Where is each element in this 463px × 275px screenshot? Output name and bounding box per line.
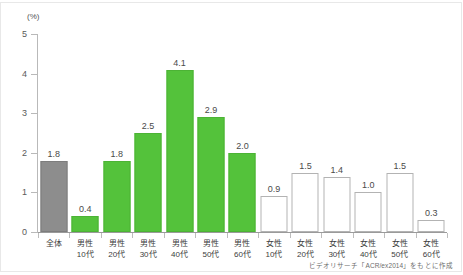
bar-value-label: 1.8 xyxy=(110,149,123,159)
bar-value-label: 0.4 xyxy=(79,204,92,214)
y-axis-tick-mark xyxy=(31,153,38,154)
x-axis-line xyxy=(37,232,447,233)
x-axis-category-label: 男性60代 xyxy=(227,238,258,260)
category-label-line1: 女性 xyxy=(321,238,352,249)
source-note: ビデオリサーチ「ACR/ex2014」をもとに作成 xyxy=(309,260,453,270)
x-axis-category-label: 女性40代 xyxy=(353,238,384,260)
category-label-line2: 20代 xyxy=(101,249,132,260)
bar-slot: 0.4 xyxy=(69,34,100,232)
x-axis-category-label: 男性50代 xyxy=(195,238,226,260)
category-label-line1: 男性 xyxy=(164,238,195,249)
y-axis-tick-mark xyxy=(31,192,38,193)
bar-slot: 1.0 xyxy=(353,34,384,232)
bar[interactable] xyxy=(418,220,445,232)
y-axis-tick-label: 1 xyxy=(5,187,27,197)
y-axis-tick-mark xyxy=(31,34,38,35)
bar[interactable] xyxy=(292,173,319,232)
category-label-line1: 男性 xyxy=(227,238,258,249)
category-label-line1: 男性 xyxy=(101,238,132,249)
y-axis-unit-label: (%) xyxy=(27,12,39,21)
bar[interactable] xyxy=(198,117,225,232)
bar-slot: 2.5 xyxy=(132,34,163,232)
category-label-line1: 男性 xyxy=(195,238,226,249)
category-label-line1: 男性 xyxy=(132,238,163,249)
bar-slot: 2.0 xyxy=(227,34,258,232)
category-label-line2: 40代 xyxy=(164,249,195,260)
category-label-line2: 50代 xyxy=(195,249,226,260)
bar[interactable] xyxy=(135,133,162,232)
x-axis-category-label: 女性20代 xyxy=(290,238,321,260)
category-label-line2: 30代 xyxy=(132,249,163,260)
bar[interactable] xyxy=(40,161,67,232)
bar-value-label: 1.4 xyxy=(331,165,344,175)
y-axis-tick-mark xyxy=(31,232,38,233)
bar-slot: 1.5 xyxy=(384,34,415,232)
bar-slot: 1.5 xyxy=(290,34,321,232)
bar-value-label: 1.8 xyxy=(47,149,60,159)
x-axis-category-label: 女性50代 xyxy=(384,238,415,260)
y-axis-tick-label: 5 xyxy=(5,29,27,39)
bar-slot: 1.8 xyxy=(101,34,132,232)
y-axis-tick-mark xyxy=(31,74,38,75)
bar-value-label: 2.0 xyxy=(236,141,249,151)
category-label-line1: 女性 xyxy=(290,238,321,249)
bar-slot: 1.8 xyxy=(38,34,69,232)
bar-value-label: 1.5 xyxy=(394,161,407,171)
bar-value-label: 2.9 xyxy=(205,105,218,115)
x-axis-category-label: 男性30代 xyxy=(132,238,163,260)
bar-chart-figure: (%) 012345 1.80.41.82.54.12.92.00.91.51.… xyxy=(0,0,463,275)
category-label-line2: 50代 xyxy=(384,249,415,260)
y-axis-tick-label: 4 xyxy=(5,69,27,79)
category-label-line1: 全体 xyxy=(38,238,69,249)
bar[interactable] xyxy=(260,196,287,232)
bar[interactable] xyxy=(355,192,382,232)
bar[interactable] xyxy=(323,177,350,232)
bar[interactable] xyxy=(229,153,256,232)
bar-value-label: 4.1 xyxy=(173,58,186,68)
y-axis-tick-label: 0 xyxy=(5,227,27,237)
bar-value-label: 2.5 xyxy=(142,121,155,131)
y-axis-tick-mark xyxy=(31,113,38,114)
bar-value-label: 1.0 xyxy=(362,180,375,190)
category-label-line2: 10代 xyxy=(69,249,100,260)
bar-value-label: 1.5 xyxy=(299,161,312,171)
bar[interactable] xyxy=(166,70,193,232)
x-axis-category-label: 男性40代 xyxy=(164,238,195,260)
bar-slot: 2.9 xyxy=(195,34,226,232)
x-axis-category-label: 全体 xyxy=(38,238,69,249)
x-axis-separator xyxy=(447,233,448,238)
bar-slot: 0.9 xyxy=(258,34,289,232)
category-label-line1: 女性 xyxy=(258,238,289,249)
bar-value-label: 0.3 xyxy=(425,208,438,218)
category-label-line1: 男性 xyxy=(69,238,100,249)
x-axis-category-label: 男性10代 xyxy=(69,238,100,260)
category-label-line2: 30代 xyxy=(321,249,352,260)
x-axis-category-label: 女性10代 xyxy=(258,238,289,260)
category-label-line1: 女性 xyxy=(384,238,415,249)
category-label-line1: 女性 xyxy=(353,238,384,249)
y-axis-tick-label: 3 xyxy=(5,108,27,118)
bar-slot: 0.3 xyxy=(416,34,447,232)
bar[interactable] xyxy=(72,216,99,232)
x-axis-category-label: 女性60代 xyxy=(416,238,447,260)
category-label-line1: 女性 xyxy=(416,238,447,249)
x-axis-category-label: 男性20代 xyxy=(101,238,132,260)
category-label-line2: 40代 xyxy=(353,249,384,260)
bar[interactable] xyxy=(103,161,130,232)
category-label-line2: 10代 xyxy=(258,249,289,260)
bar-slot: 4.1 xyxy=(164,34,195,232)
bar[interactable] xyxy=(386,173,413,232)
bar-slot: 1.4 xyxy=(321,34,352,232)
category-label-line2: 20代 xyxy=(290,249,321,260)
x-axis-category-label: 女性30代 xyxy=(321,238,352,260)
category-label-line2: 60代 xyxy=(227,249,258,260)
y-axis-tick-label: 2 xyxy=(5,148,27,158)
category-label-line2: 60代 xyxy=(416,249,447,260)
bars-layer: 1.80.41.82.54.12.92.00.91.51.41.01.50.3 xyxy=(38,34,447,232)
bar-value-label: 0.9 xyxy=(268,184,281,194)
